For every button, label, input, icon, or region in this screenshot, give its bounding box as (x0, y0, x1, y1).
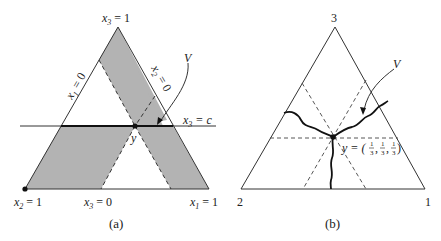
panel-a: x3 = 1 x1 = 0 x2 = 0 x3 = c y V x2 = 1 x… (13, 11, 218, 231)
label-x3-eq-0: x3 = 0 (83, 195, 112, 211)
panel-b: 3 2 1 V y = ( 1 3 , 1 3 , 1 3 ) (b) (237, 11, 431, 231)
boundary-curve-right (333, 101, 388, 137)
caption-b: (b) (325, 216, 340, 231)
label-x2-eq-1: x2 = 1 (13, 195, 42, 211)
svg-text:,: , (386, 141, 389, 155)
centroid-point-y (330, 134, 336, 140)
point-y (132, 123, 137, 128)
label-set-v: V (184, 51, 193, 65)
label-x3-eq-1: x3 = 1 (101, 11, 130, 27)
boundary-curve-left (284, 112, 333, 137)
svg-text:): ) (397, 141, 401, 155)
vertex-x2-point (22, 186, 27, 191)
label-vertex-2: 2 (237, 195, 243, 209)
label-x1-eq-1: x1 = 1 (189, 195, 218, 211)
label-x3-eq-c: x3 = c (182, 113, 212, 129)
simplex-triangle-b (241, 27, 425, 189)
dashed-line-b-2 (303, 80, 366, 189)
figure-canvas: x3 = 1 x1 = 0 x2 = 0 x3 = c y V x2 = 1 x… (0, 0, 441, 241)
svg-text:1: 1 (381, 140, 385, 148)
svg-text:,: , (375, 141, 378, 155)
label-x1-eq-0: x1 = 0 (62, 70, 90, 103)
shaded-region-lower-right (135, 126, 209, 189)
svg-text:1: 1 (392, 140, 396, 148)
svg-text:1: 1 (370, 140, 374, 148)
v-arrow-b (364, 69, 394, 110)
svg-text:3: 3 (392, 149, 396, 157)
svg-text:y = (: y = ( (341, 141, 366, 155)
caption-a: (a) (109, 216, 123, 231)
label-point-y: y (130, 131, 137, 145)
svg-text:3: 3 (381, 149, 385, 157)
label-vertex-1: 1 (425, 195, 431, 209)
v-arrowhead-b (360, 107, 366, 115)
boundary-curve-bottom (331, 137, 334, 189)
label-centroid-coords: y = ( 1 3 , 1 3 , 1 3 ) (341, 140, 401, 157)
label-vertex-3: 3 (331, 11, 337, 25)
svg-text:3: 3 (370, 149, 374, 157)
label-set-v-b: V (393, 57, 402, 71)
